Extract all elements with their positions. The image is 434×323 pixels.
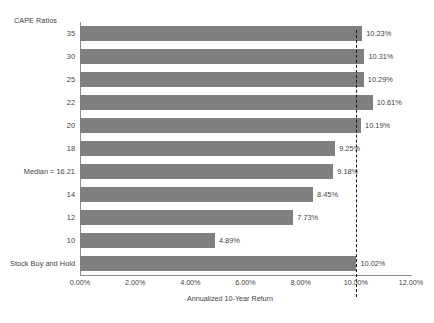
plot-area: 3510.23%3010.31%2510.29%2210.61%2010.19%… <box>80 22 411 275</box>
category-label: 20 <box>67 121 75 130</box>
reference-line <box>356 30 357 297</box>
x-axis-title-text: Annualized 10-Year Return <box>187 294 273 303</box>
category-label: 35 <box>67 29 75 38</box>
x-tick-label: 0.00% <box>70 278 90 287</box>
category-label: 22 <box>67 98 75 107</box>
bar-value-label: 10.23% <box>362 29 391 38</box>
category-label: 10 <box>67 236 75 245</box>
bar[interactable] <box>80 256 356 271</box>
cape-ratio-bar-chart: CAPE Ratios 3510.23%3010.31%2510.29%2210… <box>0 0 434 323</box>
bar[interactable] <box>80 72 364 87</box>
category-label: 25 <box>67 75 75 84</box>
bar[interactable] <box>80 210 293 225</box>
category-label: 12 <box>67 213 75 222</box>
bar[interactable] <box>80 95 373 110</box>
x-tick-label: 10.00% <box>344 278 368 287</box>
category-label: 14 <box>67 190 75 199</box>
bar[interactable] <box>80 26 362 41</box>
bar-value-label: 10.31% <box>364 52 393 61</box>
bar-value-label: 10.61% <box>373 98 402 107</box>
bar-row: 148.45% <box>80 187 411 202</box>
category-label: 18 <box>67 144 75 153</box>
bar-row: Median = 16.219.18% <box>80 164 411 179</box>
bar-value-label: 10.19% <box>361 121 390 130</box>
bar-value-label: 7.73% <box>293 213 318 222</box>
x-axis-line <box>80 275 412 276</box>
bar-row: 2510.29% <box>80 72 411 87</box>
category-label: Stock Buy and Hold <box>10 259 75 268</box>
bar-row: 189.25% <box>80 141 411 156</box>
bar-row: 3510.23% <box>80 26 411 41</box>
bar[interactable] <box>80 233 215 248</box>
bar[interactable] <box>80 187 313 202</box>
x-axis-title: Annualized 10-Year Return <box>0 294 434 303</box>
x-tick-label: 2.00% <box>125 278 145 287</box>
bar-row: Stock Buy and Hold10.02% <box>80 256 411 271</box>
bar-row: 104.89% <box>80 233 411 248</box>
bar[interactable] <box>80 118 361 133</box>
category-label: Median = 16.21 <box>24 167 75 176</box>
bar-row: 2010.19% <box>80 118 411 133</box>
bar-value-label: 10.02% <box>356 259 385 268</box>
bar[interactable] <box>80 141 335 156</box>
x-tick-label: 8.00% <box>290 278 310 287</box>
x-tick-label: 6.00% <box>235 278 255 287</box>
bar-value-label: 4.89% <box>215 236 240 245</box>
y-axis-title: CAPE Ratios <box>14 16 57 25</box>
bar-row: 127.73% <box>80 210 411 225</box>
bar[interactable] <box>80 164 333 179</box>
bar-value-label: 8.45% <box>313 190 338 199</box>
bar-value-label: 10.29% <box>364 75 393 84</box>
bar-row: 2210.61% <box>80 95 411 110</box>
bar[interactable] <box>80 49 364 64</box>
x-tick-label: 12.00% <box>399 278 423 287</box>
x-tick-label: 4.00% <box>180 278 200 287</box>
bar-row: 3010.31% <box>80 49 411 64</box>
category-label: 30 <box>67 52 75 61</box>
bar-value-label: 9.18% <box>333 167 358 176</box>
